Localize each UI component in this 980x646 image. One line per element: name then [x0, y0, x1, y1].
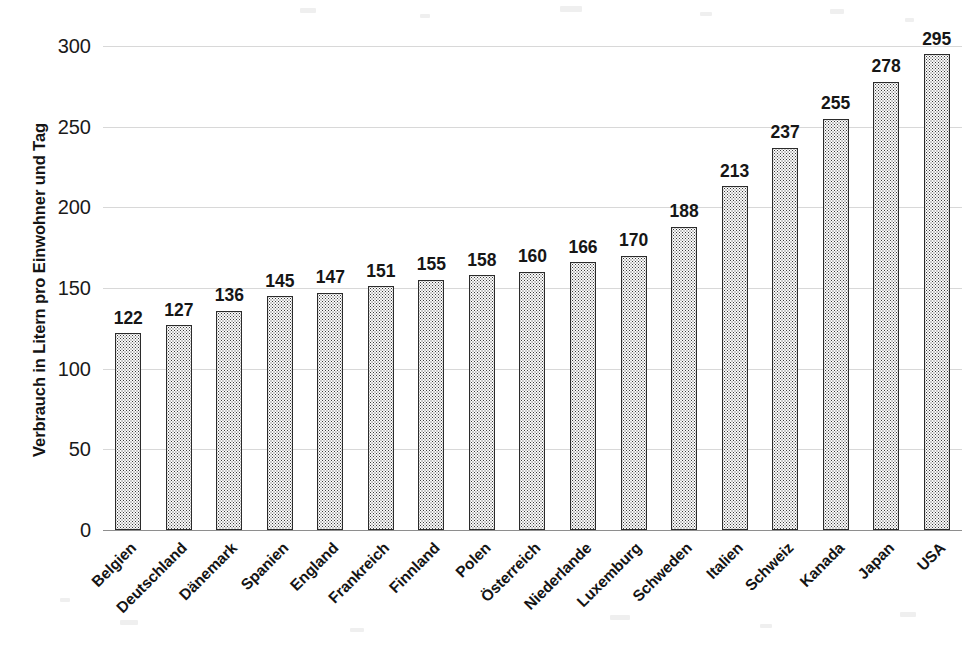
bar	[772, 148, 798, 530]
x-axis-category-label: Polen	[452, 539, 494, 581]
scan-artifact	[905, 18, 914, 22]
scan-artifact	[300, 8, 316, 13]
bar	[317, 293, 343, 530]
y-axis-tick-label: 50	[47, 439, 91, 459]
bar-value-label: 295	[902, 31, 972, 49]
bar	[216, 311, 242, 530]
y-axis-tick-label: 100	[47, 359, 91, 379]
x-axis-label-slot: Japan	[861, 530, 912, 640]
scan-artifact	[60, 598, 70, 602]
x-axis-category-label: Italien	[703, 539, 747, 583]
bar	[166, 325, 192, 530]
y-axis-tick-label: 250	[47, 117, 91, 137]
bar	[418, 280, 444, 530]
x-axis-label-slot: Finnland	[406, 530, 457, 640]
bar-group: 237	[760, 46, 811, 530]
bar	[519, 272, 545, 530]
bar-group: 295	[911, 46, 962, 530]
scan-artifact	[700, 12, 712, 16]
bar-group: 255	[810, 46, 861, 530]
bar-group: 158	[457, 46, 508, 530]
bar-group: 160	[507, 46, 558, 530]
x-axis-category-label: USA	[913, 539, 949, 575]
x-axis-label-slot: USA	[911, 530, 962, 640]
y-axis-tick-label: 0	[47, 520, 91, 540]
plot-area: 1221271361451471511551581601661701882132…	[103, 46, 962, 530]
bar	[469, 275, 495, 530]
scan-artifact	[560, 6, 582, 12]
bar	[823, 119, 849, 530]
y-axis-tick-label: 200	[47, 197, 91, 217]
x-axis-label-slot: Schweden	[659, 530, 710, 640]
bar	[368, 286, 394, 530]
bar	[722, 186, 748, 530]
bar-chart: Verbrauch in Litern pro Einwohner und Ta…	[0, 0, 980, 646]
bar	[873, 82, 899, 531]
bar-group: 155	[406, 46, 457, 530]
scan-artifact	[420, 14, 430, 18]
scan-artifact	[830, 9, 844, 14]
bar	[671, 227, 697, 530]
y-axis-tick-labels: 050100150200250300	[39, 46, 91, 530]
bar-group: 147	[305, 46, 356, 530]
bar-group: 151	[356, 46, 407, 530]
x-axis-category-label: Japan	[854, 539, 898, 583]
bar-group: 278	[861, 46, 912, 530]
x-axis-label-slot: Kanada	[810, 530, 861, 640]
bar-group: 170	[608, 46, 659, 530]
bar-group: 213	[709, 46, 760, 530]
bar	[924, 54, 950, 530]
bar-group: 122	[103, 46, 154, 530]
y-axis-tick-label: 150	[47, 278, 91, 298]
bar	[267, 296, 293, 530]
x-axis-category-labels: BelgienDeutschlandDänemarkSpanienEngland…	[103, 530, 962, 640]
y-axis-tick-label: 300	[47, 36, 91, 56]
bar-group: 145	[255, 46, 306, 530]
bar-group: 188	[659, 46, 710, 530]
bar	[115, 333, 141, 530]
bar	[621, 256, 647, 530]
bar	[570, 262, 596, 530]
bar-group: 166	[558, 46, 609, 530]
